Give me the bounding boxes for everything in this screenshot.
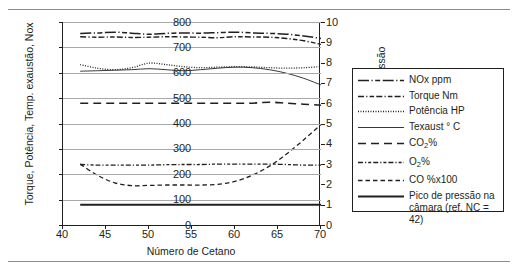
y-axis-left-tick-label: 300 xyxy=(173,143,191,154)
series-line xyxy=(80,102,321,105)
y-axis-right-tick-label: 3 xyxy=(326,159,332,170)
x-axis-tick-label: 55 xyxy=(176,229,206,240)
legend-line-swatch xyxy=(358,156,404,168)
series-line xyxy=(80,32,321,38)
legend-item[interactable]: Pico de pressão na câmara (ref. NC = 42) xyxy=(358,190,499,227)
legend-line-swatch xyxy=(358,121,404,133)
y-axis-left-tick-label: 200 xyxy=(173,169,191,180)
legend-item[interactable]: CO %x100 xyxy=(358,174,499,186)
x-axis-title: Número de Cetano xyxy=(62,245,320,257)
y-axis-right-tick-label: 9 xyxy=(326,37,332,48)
chart-figure: Torque, Potência, Temp. exaustão, Nox CO… xyxy=(0,0,518,273)
y-axis-right-tick xyxy=(321,184,325,185)
y-axis-left-tick xyxy=(59,174,63,175)
y-axis-left-tick xyxy=(59,73,63,74)
legend-line-swatch xyxy=(358,74,404,86)
y-axis-right-tick xyxy=(321,22,325,23)
series-line xyxy=(80,125,321,186)
legend-item[interactable]: Potência HP xyxy=(358,105,499,117)
x-axis-tick-label: 45 xyxy=(90,229,120,240)
y-axis-left-tick xyxy=(59,47,63,48)
x-axis-tick-label: 65 xyxy=(262,229,292,240)
gridline xyxy=(63,200,321,201)
series-line xyxy=(80,67,321,85)
plot-area xyxy=(62,22,320,225)
y-axis-right-tick-label: 2 xyxy=(326,179,332,190)
legend-label-part: % xyxy=(421,156,430,167)
x-axis-tick-label: 50 xyxy=(133,229,163,240)
x-axis-tick-label: 60 xyxy=(219,229,249,240)
y-axis-left-title: Torque, Potência, Temp. exaustão, Nox xyxy=(23,9,35,219)
y-axis-right-tick xyxy=(321,225,325,226)
legend-label: Pico de pressão na câmara (ref. NC = 42) xyxy=(409,190,499,227)
legend-label-part: CO xyxy=(409,137,424,148)
legend-label-part: O xyxy=(409,156,417,167)
y-axis-left-tick xyxy=(59,98,63,99)
y-axis-right-tick xyxy=(321,83,325,84)
y-axis-right-tick xyxy=(321,124,325,125)
y-axis-left-tick-label: 400 xyxy=(173,118,191,129)
series-line xyxy=(80,164,321,165)
y-axis-right-tick xyxy=(321,63,325,64)
gridline xyxy=(63,47,321,48)
series-line xyxy=(80,37,321,45)
y-axis-left-tick xyxy=(59,149,63,150)
y-axis-right-tick-label: 6 xyxy=(326,98,332,109)
legend-label: Potência HP xyxy=(409,105,465,117)
x-axis-tick-label: 40 xyxy=(47,229,77,240)
legend-label: Texaust ° C xyxy=(409,121,460,133)
bottom-rule xyxy=(8,261,510,262)
gridline xyxy=(63,149,321,150)
y-axis-right-tick xyxy=(321,205,325,206)
gridline xyxy=(63,73,321,74)
legend-item[interactable]: CO2% xyxy=(358,137,499,152)
legend-line-swatch xyxy=(358,190,404,202)
x-axis-tick-label: 70 xyxy=(305,229,335,240)
legend-item[interactable]: NOx ppm xyxy=(358,74,499,86)
chart-legend: NOx ppmTorque NmPotência HPTexaust ° CCO… xyxy=(352,68,504,212)
series-line xyxy=(80,63,321,70)
y-axis-left-tick-label: 700 xyxy=(173,42,191,53)
legend-line-swatch xyxy=(358,174,404,186)
gridline xyxy=(63,98,321,99)
y-axis-left-tick-label: 600 xyxy=(173,67,191,78)
gridline xyxy=(63,22,321,23)
top-rule xyxy=(8,9,510,10)
y-axis-left-tick xyxy=(59,124,63,125)
y-axis-left-tick xyxy=(59,22,63,23)
y-axis-right-tick xyxy=(321,164,325,165)
legend-item[interactable]: Texaust ° C xyxy=(358,121,499,133)
y-axis-right-tick-label: 10 xyxy=(326,17,338,28)
legend-label: CO2% xyxy=(409,137,437,152)
legend-label-part: % xyxy=(428,137,437,148)
y-axis-left-tick-label: 100 xyxy=(173,194,191,205)
legend-label: CO %x100 xyxy=(409,174,457,186)
legend-item[interactable]: Torque Nm xyxy=(358,90,499,102)
legend-label: NOx ppm xyxy=(409,74,451,86)
legend-line-swatch xyxy=(358,105,404,117)
gridline xyxy=(63,124,321,125)
y-axis-right-tick-label: 7 xyxy=(326,77,332,88)
y-axis-right-tick xyxy=(321,103,325,104)
legend-item[interactable]: O2% xyxy=(358,156,499,171)
y-axis-right-tick xyxy=(321,144,325,145)
legend-label: Torque Nm xyxy=(409,90,458,102)
legend-line-swatch xyxy=(358,90,404,102)
y-axis-left-tick-label: 800 xyxy=(173,17,191,28)
y-axis-right-tick-label: 4 xyxy=(326,138,332,149)
legend-line-swatch xyxy=(358,137,404,149)
y-axis-right-tick-label: 5 xyxy=(326,118,332,129)
gridline xyxy=(63,174,321,175)
legend-label: O2% xyxy=(409,156,430,171)
y-axis-right-tick-label: 8 xyxy=(326,57,332,68)
y-axis-left-tick-label: 500 xyxy=(173,93,191,104)
y-axis-left-tick xyxy=(59,200,63,201)
y-axis-right-tick xyxy=(321,42,325,43)
y-axis-right-tick-label: 1 xyxy=(326,199,332,210)
